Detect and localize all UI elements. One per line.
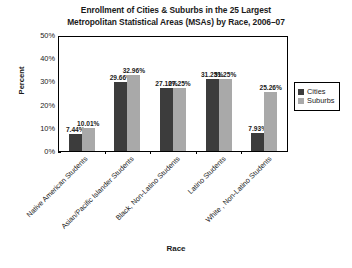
bar-cities[interactable]: 7.44% — [69, 134, 82, 151]
bar-group: 27.10%27.25% — [150, 37, 196, 151]
bar-suburbs[interactable]: 25.26% — [264, 92, 277, 151]
bar-chart: Enrollment of Cities & Suburbs in the 25… — [0, 0, 352, 268]
bar-value-label: 25.26% — [259, 84, 281, 91]
bar-group: 7.93%25.26% — [241, 37, 287, 151]
chart-title-line-1: Enrollment of Cities & Suburbs in the 25… — [0, 5, 352, 17]
y-axis-tick-label: 40% — [30, 55, 55, 62]
chart-title: Enrollment of Cities & Suburbs in the 25… — [0, 5, 352, 28]
bar-slot: 27.10% — [160, 37, 173, 151]
bar-slot: 7.44% — [69, 37, 82, 151]
y-axis-tick-label: 0% — [30, 148, 55, 155]
bar-cities[interactable]: 31.25% — [206, 79, 219, 152]
y-axis-tick-labels: 0%10%20%30%40%50% — [30, 36, 55, 152]
bar-slot: 32.96% — [127, 37, 140, 151]
bar-cities[interactable]: 7.93% — [251, 133, 264, 151]
legend-label: Suburbs — [307, 97, 335, 105]
bar-suburbs[interactable]: 31.25% — [219, 79, 232, 152]
x-axis-title: Race — [0, 244, 352, 253]
legend-swatch-icon — [298, 89, 304, 95]
y-axis-tick-label: 20% — [30, 102, 55, 109]
bar-group: 31.25%31.25% — [196, 37, 242, 151]
bar-slot: 10.01% — [82, 37, 95, 151]
bar-slot: 29.66% — [114, 37, 127, 151]
chart-title-line-2: Metropolitan Statistical Areas (MSAs) by… — [0, 17, 352, 29]
bar-value-label: 31.25% — [214, 71, 236, 78]
bar-suburbs[interactable]: 10.01% — [82, 128, 95, 151]
bar-groups: 7.44%10.01%29.66%32.96%27.10%27.25%31.25… — [59, 37, 287, 151]
bar-suburbs[interactable]: 32.96% — [127, 75, 140, 151]
bar-group: 29.66%32.96% — [105, 37, 151, 151]
bar-slot: 7.93% — [251, 37, 264, 151]
legend-label: Cities — [307, 88, 325, 96]
chart-legend: CitiesSuburbs — [294, 82, 340, 111]
bar-slot: 25.26% — [264, 37, 277, 151]
legend-swatch-icon — [298, 98, 304, 104]
x-axis-category-labels: Native American StudentsAsian/Pacific Is… — [58, 153, 288, 233]
legend-item-cities[interactable]: Cities — [298, 88, 335, 96]
plot-area: 7.44%10.01%29.66%32.96%27.10%27.25%31.25… — [58, 36, 288, 152]
y-axis-tick-label: 50% — [30, 32, 55, 39]
bar-cities[interactable]: 27.10% — [160, 88, 173, 151]
y-axis-tick-label: 30% — [30, 79, 55, 86]
bar-slot: 31.25% — [219, 37, 232, 151]
bar-value-label: 32.96% — [123, 67, 145, 74]
bar-suburbs[interactable]: 27.25% — [173, 88, 186, 151]
bar-group: 7.44%10.01% — [59, 37, 105, 151]
y-axis-title: Percent — [17, 51, 26, 111]
bar-slot: 31.25% — [206, 37, 219, 151]
legend-item-suburbs[interactable]: Suburbs — [298, 97, 335, 105]
x-axis-label-slot: White , Non-Latino Students — [242, 153, 288, 233]
bar-value-label: 27.25% — [168, 80, 190, 87]
y-axis-tick-label: 10% — [30, 125, 55, 132]
bar-cities[interactable]: 29.66% — [114, 82, 127, 151]
bar-slot: 27.25% — [173, 37, 186, 151]
bar-value-label: 10.01% — [77, 120, 99, 127]
